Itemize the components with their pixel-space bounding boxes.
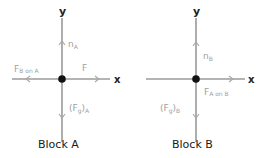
x-axis-label: x: [114, 74, 121, 85]
block-b-title: Block B: [172, 138, 213, 151]
block-a-title: Block A: [38, 138, 79, 151]
y-axis-label: y: [59, 5, 66, 18]
x-axis-label: x: [248, 74, 255, 85]
force-label-b-on-a: FB on A: [14, 64, 40, 74]
force-label-normal-a: nA: [68, 39, 79, 50]
force-label-gravity-a: (Fg)A: [69, 103, 90, 115]
block-b-diagram: y x nB FA on B (Fg)B Block B: [146, 5, 255, 151]
free-body-diagrams: y x nA FB on A F (Fg)A Block A y x nB FA…: [0, 0, 267, 158]
force-label-gravity-b: (Fg)B: [160, 103, 180, 115]
force-label-normal-b: nB: [203, 51, 213, 62]
force-label-a-on-b: FA on B: [204, 87, 229, 97]
block-a-dot: [58, 75, 66, 83]
y-axis-label: y: [193, 5, 200, 18]
force-label-f: F: [82, 63, 87, 73]
block-b-dot: [192, 75, 200, 83]
block-a-diagram: y x nA FB on A F (Fg)A Block A: [12, 5, 121, 151]
